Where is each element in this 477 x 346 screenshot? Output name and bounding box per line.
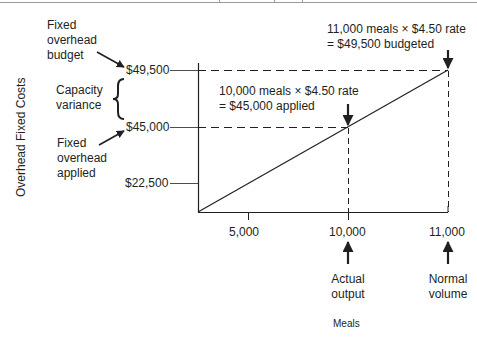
annotation-line: = $49,500 budgeted xyxy=(327,37,466,52)
x-axis-title: Meals xyxy=(333,318,360,329)
arrow-fixed-overhead-budget xyxy=(97,52,124,67)
label-line: Fixed xyxy=(57,136,107,151)
label-line: overhead xyxy=(47,33,97,48)
label-line: Normal xyxy=(426,272,470,287)
applied-annotation: 10,000 meals × $4.50 rate = $45,000 appl… xyxy=(219,84,359,114)
normal-volume-label: Normal volume xyxy=(426,272,470,302)
x-tick-5000: 5,000 xyxy=(229,225,259,239)
y-tick-22500: $22,500 xyxy=(125,176,168,190)
annotation-line: 10,000 meals × $4.50 rate xyxy=(219,84,359,99)
label-line: overhead xyxy=(57,151,107,166)
x-axis xyxy=(198,206,448,220)
label-line: volume xyxy=(426,287,470,302)
label-line: Fixed xyxy=(47,18,97,33)
label-line: applied xyxy=(57,166,107,181)
label-line: output xyxy=(328,287,368,302)
y-axis-title: Overhead Fixed Costs xyxy=(14,78,28,197)
capacity-variance-label: Capacity variance xyxy=(56,83,103,113)
y-tick-45000: $45,000 xyxy=(126,120,169,134)
label-line: budget xyxy=(47,48,97,63)
fixed-overhead-applied-label: Fixed overhead applied xyxy=(57,136,107,181)
label-line: Actual xyxy=(328,272,368,287)
capacity-variance-brace-icon xyxy=(113,79,124,119)
annotation-line: = $45,000 applied xyxy=(219,99,359,114)
annotation-line: 11,000 meals × $4.50 rate xyxy=(327,22,466,37)
budgeted-annotation: 11,000 meals × $4.50 rate = $49,500 budg… xyxy=(327,22,466,52)
label-line: variance xyxy=(56,98,103,113)
x-tick-10000: 10,000 xyxy=(329,225,366,239)
x-tick-11000: 11,000 xyxy=(429,225,465,239)
fixed-overhead-budget-label: Fixed overhead budget xyxy=(47,18,97,63)
y-tick-49500: $49,500 xyxy=(126,63,169,77)
label-line: Capacity xyxy=(56,83,103,98)
actual-output-label: Actual output xyxy=(328,272,368,302)
